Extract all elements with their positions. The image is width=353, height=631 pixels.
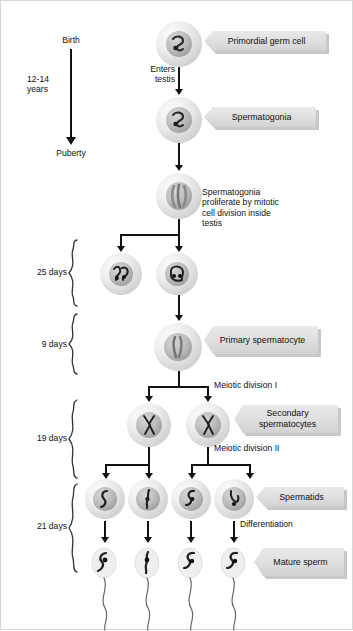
cell-spermatid-1: [85, 479, 125, 519]
nucleus: [179, 487, 203, 511]
cell-spermatid-3: [171, 479, 211, 519]
callout-label: Primary spermatocyte: [213, 335, 306, 346]
flow-arrowhead-icon: [175, 246, 183, 252]
cell-spermatogonia: [156, 97, 202, 143]
cell-spermatogonium-left: [100, 253, 142, 295]
timeline-arrowhead-icon: [66, 137, 76, 145]
flow-arrowhead-icon: [175, 315, 183, 321]
callout-spermatogonia: Spermatogonia: [204, 107, 316, 127]
cell-primordial-germ-cell: [156, 21, 202, 67]
flow-arrowhead-icon: [204, 396, 212, 402]
flow-arrowhead-icon: [175, 165, 183, 171]
callout-label: Spermatogonia: [225, 112, 292, 123]
nucleus: [164, 333, 192, 361]
callout-spermatids: Spermatids: [256, 487, 344, 507]
timeline-end-label: Puberty: [41, 148, 101, 158]
callout-label: Mature sperm: [266, 557, 327, 568]
nucleus: [195, 412, 221, 438]
annotation-enters-testis: Enters testis: [129, 64, 175, 85]
flow-arrowhead-icon: [144, 537, 152, 543]
callout-secondary-spermatocytes: Secondary spermatocytes: [234, 405, 338, 433]
duration-label-19-days: 19 days: [25, 433, 67, 443]
callout-label: Primordial germ cell: [221, 36, 306, 47]
callout-mature-sperm: Mature sperm: [254, 548, 344, 576]
fork-stem-line-right: [207, 447, 209, 465]
callout-label: Spermatids: [272, 492, 324, 503]
fork-cross-line-left: [105, 464, 149, 466]
cell-spermatogonium-right: [156, 253, 198, 295]
timeline-axis-line: [70, 49, 72, 139]
brace-21-days: [67, 483, 79, 573]
cell-spermatid-4: [214, 479, 254, 519]
brace-19-days: [67, 399, 79, 479]
flow-arrowhead-icon: [117, 246, 125, 252]
nucleus: [166, 182, 192, 210]
duration-label-21-days: 21 days: [25, 521, 67, 531]
mature-sperm-3: [173, 546, 209, 631]
flow-arrow-line: [178, 143, 180, 167]
nucleus: [165, 262, 189, 286]
callout-label: Secondary spermatocytes: [237, 408, 331, 429]
flow-arrowhead-icon: [246, 473, 254, 479]
duration-label-25-days: 25 days: [25, 267, 67, 277]
flow-arrow-line: [178, 67, 180, 91]
spermatogenesis-diagram: Birth 12-14 years Puberty Primordial ger…: [1, 1, 352, 629]
callout-primordial-germ-cell: Primordial germ cell: [204, 31, 326, 51]
fork-cross-line: [120, 234, 179, 236]
flow-arrowhead-icon: [187, 537, 195, 543]
flow-arrowhead-icon: [101, 537, 109, 543]
fork-stem-line-left: [148, 447, 150, 465]
flow-arrowhead-icon: [175, 89, 183, 95]
flow-arrow-line: [178, 295, 180, 317]
flow-arrowhead-icon: [145, 396, 153, 402]
brace-25-days: [67, 239, 79, 307]
cell-secondary-spermatocyte-right: [186, 403, 230, 447]
flow-arrowhead-icon: [230, 537, 238, 543]
cell-secondary-spermatocyte-left: [127, 403, 171, 447]
annotation-meiotic-division-2: Meiotic division II: [214, 443, 338, 453]
timeline-start-label: Birth: [43, 35, 99, 45]
cell-spermatid-2: [128, 479, 168, 519]
nucleus: [222, 487, 246, 511]
fork-cross-line: [148, 386, 209, 388]
cell-primary-spermatocyte: [154, 323, 202, 371]
mature-sperm-1: [87, 546, 123, 631]
annotation-mitotic-proliferation: Spermatogonia proliferate by mitotic cel…: [202, 187, 342, 229]
nucleus: [109, 262, 133, 286]
timeline-duration-label: 12-14 years: [27, 74, 67, 95]
nucleus: [93, 487, 117, 511]
annotation-meiotic-division-1: Meiotic division I: [214, 380, 334, 390]
callout-primary-spermatocyte: Primary spermatocyte: [204, 326, 318, 354]
annotation-differentiation: Differentiation: [240, 519, 344, 529]
mature-sperm-4: [216, 546, 252, 631]
nucleus: [136, 487, 160, 511]
fork-stem-line: [178, 371, 180, 387]
nucleus: [166, 107, 192, 133]
duration-label-9-days: 9 days: [25, 339, 67, 349]
mature-sperm-2: [130, 546, 166, 631]
nucleus: [136, 412, 162, 438]
fork-cross-line-right: [191, 464, 251, 466]
nucleus: [166, 31, 192, 57]
brace-9-days: [67, 313, 79, 375]
fork-stem-line: [178, 219, 180, 235]
cell-dividing-spermatogonium: [156, 173, 202, 219]
